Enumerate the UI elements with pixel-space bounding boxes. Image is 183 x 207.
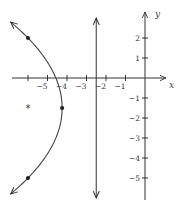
x-tick-label: −1 (114, 82, 125, 91)
y-tick-label: −3 (129, 134, 140, 143)
y-tick-label: −4 (129, 154, 140, 163)
focus-marker: * (26, 103, 31, 114)
y-tick-label: 2 (135, 34, 140, 43)
y-tick-label: −2 (129, 114, 140, 123)
x-tick-label: −5 (36, 82, 47, 91)
y-tick-label: −5 (129, 174, 140, 183)
tick-labels: −5−4−3−2−121−1−2−3−4−5 (36, 34, 140, 183)
lower-point-dot (26, 176, 30, 180)
parabola-curve (11, 22, 63, 194)
parabola-diagram: −5−4−3−2−121−1−2−3−4−5 * x y (0, 0, 183, 207)
y-tick-label: 1 (135, 54, 140, 63)
x-axis-label: x (169, 80, 174, 90)
shapes: * (11, 18, 97, 198)
x-tick-label: −3 (75, 82, 86, 91)
vertex-dot (60, 106, 64, 110)
y-tick-label: −1 (129, 94, 140, 103)
upper-point-dot (26, 36, 30, 40)
y-axis-label: y (154, 9, 161, 19)
axes (12, 12, 166, 200)
